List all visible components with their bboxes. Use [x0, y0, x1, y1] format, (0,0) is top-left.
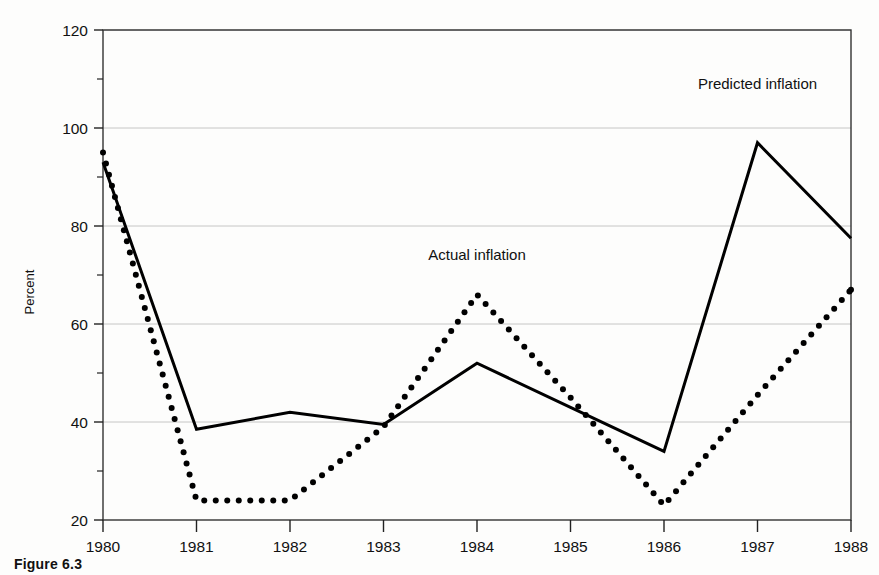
series-dot-actual	[328, 465, 334, 471]
series-dot-actual	[118, 216, 124, 222]
x-tick-label: 1987	[740, 538, 774, 555]
x-tick-label: 1983	[366, 538, 400, 555]
series-dot-actual	[808, 331, 814, 337]
series-dot-actual	[175, 427, 181, 433]
series-dot-actual	[346, 451, 352, 457]
series-annotations: Predicted inflationActual inflation	[428, 75, 817, 263]
series-dot-actual	[139, 294, 145, 300]
series-dot-actual	[620, 456, 626, 462]
series-dot-actual	[793, 349, 799, 355]
series-dot-actual	[415, 375, 421, 381]
series-dot-actual	[733, 418, 739, 424]
series-dot-actual	[373, 430, 379, 436]
x-tick-label: 1985	[553, 538, 587, 555]
series-dot-actual	[605, 438, 611, 444]
series-dot-actual	[725, 427, 731, 433]
series-dot-actual	[169, 405, 175, 411]
series-dot-actual	[628, 464, 634, 470]
series-dot-actual	[583, 412, 589, 418]
series-dot-actual	[506, 327, 512, 333]
series-dot-actual	[673, 488, 679, 494]
series-dot-actual	[136, 283, 142, 289]
y-tick-label: 20	[71, 512, 89, 529]
series-dot-actual	[282, 497, 288, 503]
series-annotation: Actual inflation	[428, 246, 526, 263]
series-dot-actual	[537, 361, 543, 367]
series-dot-actual	[710, 444, 716, 450]
series-dot-actual	[103, 161, 109, 167]
figure-container: 20406080100120 1980198119821983198419851…	[0, 0, 879, 575]
series-dot-actual	[695, 462, 701, 468]
series-dot-actual	[568, 395, 574, 401]
series-dot-actual	[124, 238, 130, 244]
y-axis-tick-labels: 20406080100120	[62, 22, 88, 529]
series-dot-actual	[544, 369, 550, 375]
line-chart: 20406080100120 1980198119821983198419851…	[0, 0, 879, 575]
plot-frame	[103, 30, 851, 520]
series-dot-actual	[259, 497, 265, 503]
series-dot-actual	[160, 372, 166, 378]
series-dot-actual	[154, 349, 160, 355]
series-dot-actual	[310, 479, 316, 485]
series-dot-actual	[475, 293, 481, 299]
series-dot-actual	[448, 328, 454, 334]
series-dot-actual	[190, 483, 196, 489]
series-dot-actual	[355, 444, 361, 450]
series-dot-actual	[778, 366, 784, 372]
figure-caption-number: 6.3	[62, 556, 82, 572]
series-dot-actual	[292, 494, 298, 500]
series-dot-actual	[575, 403, 581, 409]
series-dot-actual	[364, 437, 370, 443]
series-dot-actual	[201, 497, 207, 503]
series-dot-actual	[145, 316, 151, 322]
series-dot-actual	[402, 394, 408, 400]
series-dot-actual	[127, 249, 133, 255]
series-dot-actual	[422, 366, 428, 372]
series-dot-actual	[560, 386, 566, 392]
series-dot-actual	[247, 497, 253, 503]
series-dot-actual	[112, 194, 118, 200]
x-axis-tick-labels: 198019811982198319841985198619871988	[86, 538, 868, 555]
series-dot-actual	[816, 323, 822, 329]
series-dot-actual	[224, 497, 230, 503]
series-dot-actual	[770, 374, 776, 380]
series-dot-actual	[703, 453, 709, 459]
series-dot-actual	[514, 335, 520, 341]
series-dot-actual	[109, 183, 115, 189]
series-dot-actual	[483, 301, 489, 307]
series-dot-actual	[388, 413, 394, 419]
series-dot-actual	[148, 327, 154, 333]
series-dot-actual	[270, 497, 276, 503]
series-dot-actual	[435, 347, 441, 353]
series-dot-actual	[824, 314, 830, 320]
series-dot-actual	[395, 403, 401, 409]
series-dot-actual	[680, 479, 686, 485]
series-dot-actual	[651, 490, 657, 496]
series-dot-actual	[301, 486, 307, 492]
series-dot-actual	[831, 306, 837, 312]
series-dot-actual	[337, 458, 343, 464]
series-dot-actual	[718, 436, 724, 442]
series-dot-actual	[755, 392, 761, 398]
x-tick-label: 1986	[647, 538, 681, 555]
series-dot-actual	[643, 482, 649, 488]
figure-caption: Figure 6.3	[14, 556, 82, 572]
series-dot-actual	[529, 352, 535, 358]
series-dot-actual	[455, 319, 461, 325]
x-axis-ticks	[103, 520, 851, 532]
series-dot-actual	[521, 344, 527, 350]
series-dot-actual	[157, 361, 163, 367]
series-dot-actual	[498, 318, 504, 324]
y-tick-label: 60	[71, 316, 89, 333]
series-dot-actual	[236, 497, 242, 503]
series-dot-actual	[187, 472, 193, 478]
series-dot-actual	[762, 383, 768, 389]
series-dot-actual	[142, 305, 148, 311]
series-dot-actual	[382, 422, 388, 428]
x-tick-label: 1988	[834, 538, 868, 555]
y-axis-label: Percent	[22, 269, 37, 314]
series-dot-actual	[133, 272, 139, 278]
x-tick-label: 1980	[86, 538, 121, 555]
series-dot-actual	[740, 409, 746, 415]
series-dot-actual	[163, 383, 169, 389]
